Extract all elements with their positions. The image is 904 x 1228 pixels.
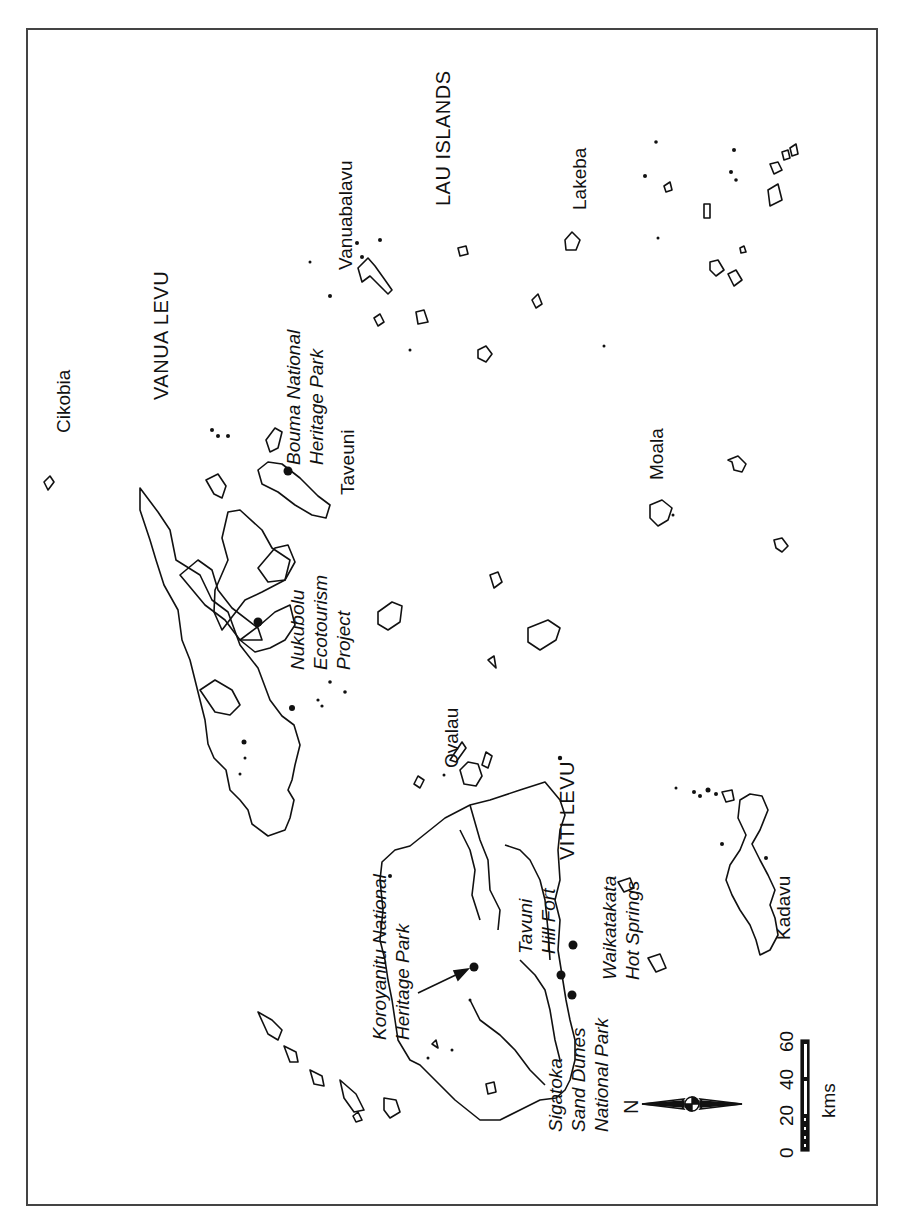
scale-tick-40: 40 <box>776 1069 798 1090</box>
site-label-sigatoka: Sigatoka Sand Dunes National Park <box>544 1018 613 1132</box>
site-label-line: Heritage Park <box>391 874 414 1040</box>
island-label-kadavu: Kadavu <box>772 876 795 940</box>
site-label-nukubolu: Nukubolu Ecotourism Project <box>286 575 355 670</box>
site-dot-koroyanitu <box>470 963 479 972</box>
site-dot-bouma <box>284 467 293 476</box>
scale-tick-20: 20 <box>776 1105 798 1126</box>
kadavu-outline <box>726 794 778 955</box>
scale-tick-0: 0 <box>776 1147 798 1158</box>
site-label-line: Sigatoka <box>544 1018 567 1132</box>
site-label-line: Hill Fort <box>537 889 560 954</box>
region-label-vanua-levu: VANUA LEVU <box>150 271 173 400</box>
site-label-line: Nukubolu <box>286 575 309 670</box>
koroyanitu-pointer-arrow <box>418 969 468 993</box>
region-label-lau-islands: LAU ISLANDS <box>432 70 455 206</box>
ovalau-outline <box>460 762 482 786</box>
site-dot-waikatakata <box>569 941 578 950</box>
site-label-line: Hot Springs <box>621 876 644 980</box>
site-label-bouma: Bouma National Heritage Park <box>282 330 328 465</box>
region-label-viti-levu: VITI LEVU <box>556 761 579 860</box>
site-label-line: Ecotourism <box>309 575 332 670</box>
north-arrow-icon <box>642 1097 742 1111</box>
moala-outline <box>650 500 672 526</box>
site-label-tavuni: Tavuni Hill Fort <box>514 889 560 954</box>
site-label-line: Project <box>332 575 355 670</box>
site-dot-tavuni <box>557 971 566 980</box>
taveuni-outline <box>258 462 330 518</box>
scale-bar <box>801 1040 809 1151</box>
site-label-line: Bouma National <box>282 330 305 465</box>
site-label-koroyanitu: Koroyanitu National Heritage Park <box>368 874 414 1040</box>
site-label-waikatakata: Waikatakata Hot Springs <box>598 876 644 980</box>
island-label-ovalau: Ovalau <box>440 708 463 768</box>
island-label-vanuabalavu: Vanuabalavu <box>334 160 357 270</box>
site-dot-nukubolu <box>254 618 263 627</box>
island-label-lakeba: Lakeba <box>568 148 591 210</box>
scale-unit-label: kms <box>818 1083 840 1118</box>
island-label-taveuni: Taveuni <box>336 430 359 496</box>
site-label-line: Tavuni <box>514 889 537 954</box>
island-label-moala: Moala <box>645 428 668 480</box>
vanua-levu-outline <box>140 488 300 836</box>
site-label-line: Koroyanitu National <box>368 874 391 1040</box>
site-label-line: Sand Dunes <box>567 1018 590 1132</box>
cikobia-outline <box>44 476 54 490</box>
site-label-line: Waikatakata <box>598 876 621 980</box>
site-dot-sigatoka <box>568 991 577 1000</box>
scale-tick-60: 60 <box>776 1031 798 1052</box>
site-label-line: Heritage Park <box>305 330 328 465</box>
site-label-line: National Park <box>590 1018 613 1132</box>
north-arrow-label: N <box>620 1100 643 1114</box>
island-label-cikobia: Cikobia <box>52 370 75 433</box>
